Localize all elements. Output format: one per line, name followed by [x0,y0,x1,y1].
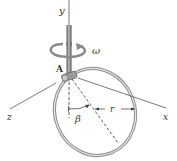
x-axis-label: x [163,112,168,122]
y-axis-label: y [58,5,65,16]
z-axis-label: z [6,112,12,122]
beta-angle-arc [69,105,89,109]
radius-dimension [95,108,135,111]
collar-a [61,71,77,82]
vertical-rod [67,25,72,75]
omega-label: ω [92,45,100,56]
point-a-label: A [55,64,64,74]
ring-rotation-diagram: y ω A z x β r [0,0,177,161]
beta-label: β [74,113,81,124]
radius-label: r [110,104,115,114]
z-axis-line [10,83,56,109]
